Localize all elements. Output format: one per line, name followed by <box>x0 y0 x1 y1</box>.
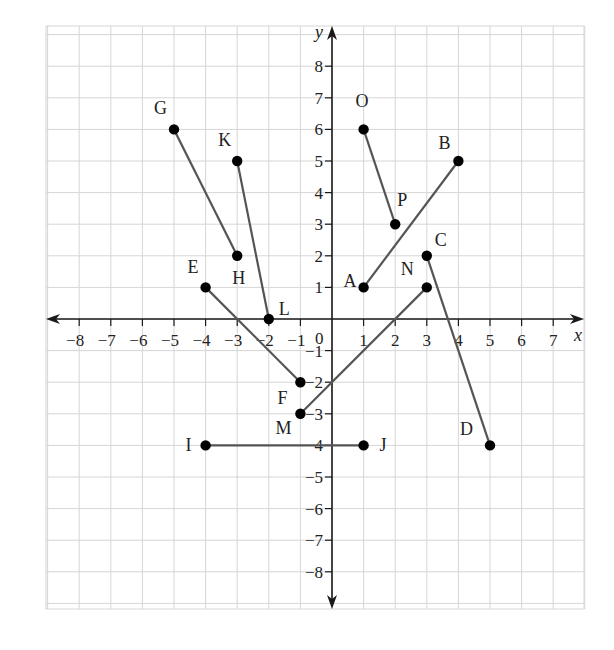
x-axis-label: x <box>573 325 582 345</box>
x-tick-label: −7 <box>98 331 117 350</box>
point-E <box>200 282 210 292</box>
grid <box>46 26 585 609</box>
y-tick-label: −5 <box>305 468 323 487</box>
point-H <box>232 251 242 261</box>
y-axis-label: y <box>313 22 323 42</box>
segment-KL <box>237 161 269 319</box>
point-label-B: B <box>438 133 450 153</box>
y-tick-label: 1 <box>315 278 324 297</box>
origin-label: 0 <box>315 329 324 348</box>
point-label-O: O <box>356 91 369 111</box>
x-tick-label: −8 <box>66 331 84 350</box>
x-tick-label: −5 <box>161 331 179 350</box>
point-L <box>264 314 274 324</box>
x-tick-label: −6 <box>129 331 147 350</box>
segment-OP <box>364 129 396 224</box>
point-label-H: H <box>232 268 245 288</box>
point-N <box>422 282 432 292</box>
point-G <box>169 124 179 134</box>
point-I <box>200 440 210 450</box>
x-tick-label: 6 <box>517 331 526 350</box>
point-label-E: E <box>188 257 199 277</box>
point-label-F: F <box>277 388 287 408</box>
point-label-M: M <box>275 418 291 438</box>
x-tick-label: −4 <box>193 331 212 350</box>
point-label-P: P <box>397 190 407 210</box>
point-label-D: D <box>460 419 473 439</box>
point-C <box>422 251 432 261</box>
axes: xy <box>46 22 584 609</box>
y-tick-label: −6 <box>305 500 323 519</box>
point-A <box>358 282 368 292</box>
y-tick-label: −7 <box>305 531 324 550</box>
point-label-C: C <box>435 230 447 250</box>
coordinate-plane: xy −8−7−6−5−4−3−2−11234567−8−7−6−5−4−3−2… <box>0 0 614 650</box>
x-tick-label: 2 <box>391 331 400 350</box>
y-tick-label: −2 <box>305 373 323 392</box>
x-tick-label: −1 <box>287 331 305 350</box>
point-D <box>485 440 495 450</box>
x-tick-label: −3 <box>224 331 242 350</box>
y-tick-label: −8 <box>305 563 323 582</box>
y-tick-label: 6 <box>315 120 324 139</box>
y-tick-label: 7 <box>315 89 324 108</box>
point-P <box>390 219 400 229</box>
point-M <box>295 409 305 419</box>
point-label-N: N <box>401 259 414 279</box>
point-label-I: I <box>186 435 192 455</box>
point-F <box>295 377 305 387</box>
x-tick-label: 3 <box>423 331 432 350</box>
y-tick-label: 4 <box>315 184 324 203</box>
x-tick-label: 7 <box>549 331 558 350</box>
point-O <box>358 124 368 134</box>
point-J <box>358 440 368 450</box>
y-tick-label: 5 <box>315 152 324 171</box>
point-label-A: A <box>344 271 357 291</box>
grid-border <box>46 26 584 609</box>
point-label-L: L <box>279 299 290 319</box>
y-tick-label: 8 <box>315 57 324 76</box>
point-K <box>232 156 242 166</box>
point-label-G: G <box>154 98 167 118</box>
y-tick-label: 3 <box>315 215 324 234</box>
point-label-K: K <box>218 130 231 150</box>
x-tick-label: 5 <box>486 331 495 350</box>
point-B <box>453 156 463 166</box>
point-label-J: J <box>380 435 387 455</box>
y-tick-label: 2 <box>315 247 324 266</box>
